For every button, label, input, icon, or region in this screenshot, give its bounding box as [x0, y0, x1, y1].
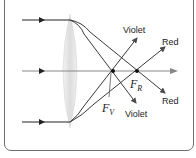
label-violet-top: Violet [123, 25, 146, 35]
focal-point-violet [111, 69, 115, 73]
label-red-top: Red [162, 37, 179, 47]
label-focal-violet: FV [101, 101, 115, 117]
arrow-right-icon [39, 68, 45, 74]
arrow-right-icon [39, 119, 45, 125]
label-focal-red: FR [129, 77, 142, 93]
arrow-right-icon [39, 17, 45, 23]
ray-top-red [70, 20, 165, 93]
ray-bottom-red [70, 47, 165, 122]
axis-arrow-icon [170, 68, 178, 74]
label-violet-bottom: Violet [125, 109, 148, 119]
label-red-bottom: Red [162, 96, 179, 106]
focal-violet-leader [109, 73, 111, 97]
focal-point-red [135, 69, 139, 73]
chromatic-aberration-diagram: Violet Red Red Violet FR FV [0, 0, 196, 158]
